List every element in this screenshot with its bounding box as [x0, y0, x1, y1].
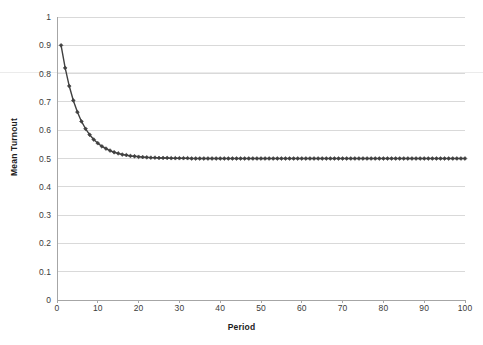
y-tick-label: 0.5: [39, 154, 51, 164]
x-tick-label: 10: [93, 303, 103, 313]
y-axis-tick-labels: 00.10.20.30.40.50.60.70.80.91: [0, 17, 51, 300]
y-tick-label: 0.6: [39, 125, 51, 135]
y-tick-label: 0.3: [39, 210, 51, 220]
y-tick-label: 0.8: [39, 69, 51, 79]
x-tick-label: 100: [458, 303, 472, 313]
x-tick-label: 70: [338, 303, 348, 313]
x-tick-label: 0: [55, 303, 60, 313]
plot-area: [57, 17, 465, 300]
x-axis-tick-labels: 0102030405060708090100: [57, 303, 465, 317]
y-tick-label: 0.1: [39, 267, 51, 277]
chart-container: 00.10.20.30.40.50.60.70.80.91 0102030405…: [0, 0, 483, 345]
y-tick-label: 0.2: [39, 238, 51, 248]
x-tick-label: 20: [134, 303, 144, 313]
x-tick-label: 40: [215, 303, 225, 313]
x-tick-label: 30: [175, 303, 185, 313]
y-tick-label: 0.4: [39, 182, 51, 192]
y-tick-label: 0.7: [39, 97, 51, 107]
y-tick-label: 0.9: [39, 40, 51, 50]
series-mean-turnout: [57, 17, 465, 300]
y-axis-title: Mean Turnout: [9, 118, 21, 176]
x-tick-label: 80: [379, 303, 389, 313]
y-tick-label: 1: [46, 12, 51, 22]
x-tick-label: 60: [297, 303, 307, 313]
y-tick-label: 0: [46, 295, 51, 305]
x-tick-label: 50: [256, 303, 266, 313]
x-axis-title: Period: [0, 322, 483, 332]
x-tick-label: 90: [419, 303, 429, 313]
